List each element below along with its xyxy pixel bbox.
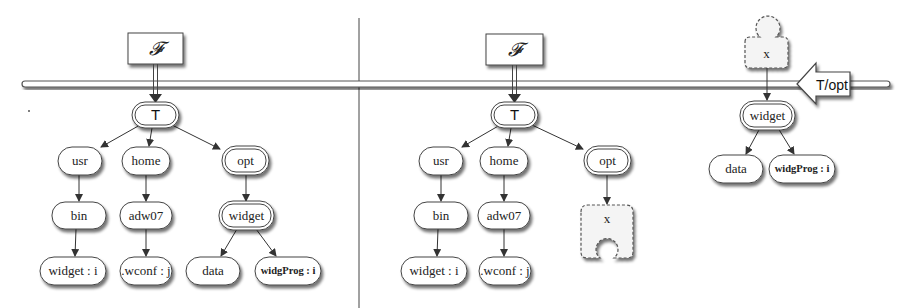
svg-text:bin: bin [71, 208, 88, 223]
svg-text:bin: bin [433, 208, 450, 223]
svg-text:T/opt: T/opt [816, 77, 848, 93]
svg-text:data: data [202, 263, 224, 278]
left-panel: 𝓕 T usr home [40, 33, 321, 285]
svg-text:widget: widget [229, 208, 265, 223]
svg-text:data: data [725, 161, 747, 176]
svg-text:adw07: adw07 [129, 208, 164, 223]
svg-text:x: x [604, 211, 611, 226]
right-panel: 𝓕 T usr home opt bin a [401, 16, 850, 285]
svg-text:home: home [490, 153, 519, 168]
svg-text:widgProg : i: widgProg : i [261, 265, 316, 276]
stray-dot [28, 110, 30, 112]
filesystem-boundary-rail [22, 81, 890, 87]
svg-text:widget : i: widget : i [48, 263, 97, 278]
svg-text:opt: opt [237, 153, 254, 168]
svg-text:T: T [151, 106, 160, 123]
svg-text:T: T [510, 106, 519, 123]
svg-text:opt: opt [599, 153, 616, 168]
svg-text:widgProg : i: widgProg : i [775, 163, 830, 174]
tree-diagram: 𝓕 T usr home [0, 0, 916, 308]
svg-text:home: home [132, 153, 161, 168]
svg-text:usr: usr [72, 153, 89, 168]
svg-text:usr: usr [433, 153, 450, 168]
svg-text:adw07: adw07 [487, 208, 522, 223]
svg-text:widget : i: widget : i [409, 263, 458, 278]
svg-text:.wconf : j: .wconf : j [480, 263, 529, 278]
svg-text:x: x [763, 46, 770, 61]
svg-text:.wconf : j: .wconf : j [121, 263, 170, 278]
svg-text:widget: widget [750, 108, 786, 123]
